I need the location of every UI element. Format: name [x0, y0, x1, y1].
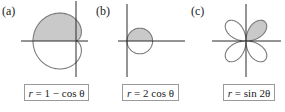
equation-rhs-a: 1 − cos θ — [45, 87, 85, 99]
equation-lhs-b: r — [127, 87, 131, 99]
panel-label-c: (c) — [191, 5, 204, 17]
equation-lhs-c: r — [228, 87, 232, 99]
equation-rhs-b: 2 cos θ — [143, 87, 174, 99]
equation-box-a: r = 1 − cos θ — [24, 84, 89, 101]
polar-curves-figure: (a) (b) (c) r = 1 − cos θ r = 2 cos θ r … — [0, 0, 285, 112]
shaded-region-b — [127, 28, 153, 41]
panel-b-plot — [118, 4, 185, 77]
panel-a-plot — [21, 1, 88, 77]
shaded-region-c — [246, 20, 267, 41]
panel-label-b: (b) — [96, 5, 110, 17]
equation-lhs-a: r — [29, 87, 33, 99]
equation-box-c: r = sin 2θ — [223, 84, 275, 101]
equation-rhs-c: sin 2θ — [244, 87, 270, 99]
equation-box-b: r = 2 cos θ — [122, 84, 179, 101]
panel-label-a: (a) — [2, 5, 15, 17]
panel-c-plot — [212, 4, 281, 77]
